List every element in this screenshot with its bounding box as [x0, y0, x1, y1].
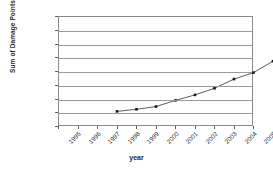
y-axis-tick-mark	[55, 112, 58, 113]
data-point-marker	[252, 71, 255, 74]
x-axis-tick-mark	[156, 126, 157, 129]
data-point-marker	[194, 94, 197, 97]
x-axis-tick-label: 1996	[87, 130, 102, 145]
x-axis-tick-mark	[97, 126, 98, 129]
y-axis-tick-mark	[55, 71, 58, 72]
x-axis-title: year	[0, 154, 273, 161]
y-axis-tick-mark	[55, 85, 58, 86]
x-axis-tick-mark	[195, 126, 196, 129]
data-point-marker	[135, 108, 138, 111]
x-axis-tick-mark	[253, 126, 254, 129]
x-axis-tick-mark	[78, 126, 79, 129]
gridline-horizontal	[59, 72, 252, 73]
gridline-horizontal	[59, 58, 252, 59]
x-axis-tick-mark	[234, 126, 235, 129]
y-axis-tick-mark	[55, 16, 58, 17]
x-axis-tick-mark	[58, 126, 59, 129]
gridline-horizontal	[59, 31, 252, 32]
data-point-marker	[155, 105, 158, 108]
y-axis-title: Sum of Damage Points	[9, 0, 16, 87]
data-point-marker	[272, 60, 273, 63]
gridline-horizontal	[59, 86, 252, 87]
data-point-marker	[213, 87, 216, 90]
gridline-horizontal	[59, 100, 252, 101]
gridline-horizontal	[59, 113, 252, 114]
x-axis-tick-mark	[117, 126, 118, 129]
y-axis-tick-mark	[55, 99, 58, 100]
plot-area	[58, 16, 253, 126]
gridline-horizontal	[59, 45, 252, 46]
line-series-path	[117, 45, 273, 111]
data-point-marker	[233, 78, 236, 81]
y-axis-tick-mark	[55, 30, 58, 31]
x-axis-tick-mark	[175, 126, 176, 129]
y-axis-tick-mark	[55, 57, 58, 58]
x-axis-tick-mark	[214, 126, 215, 129]
y-axis-tick-mark	[55, 44, 58, 45]
x-axis-tick-mark	[136, 126, 137, 129]
x-axis-tick-label: 1995	[67, 130, 82, 145]
chart-container: Sum of Damage Points year 01000002000003…	[0, 0, 273, 170]
marker-group	[116, 44, 273, 113]
